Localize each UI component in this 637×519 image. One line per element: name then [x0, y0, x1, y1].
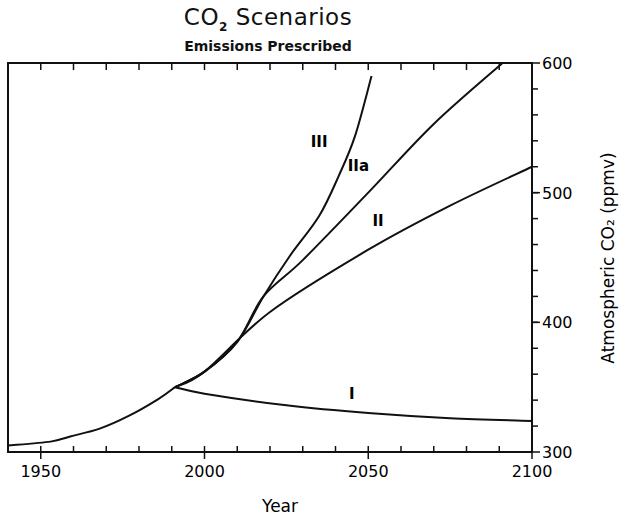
series-line-ii: [175, 167, 532, 387]
series-line-iii: [175, 76, 372, 387]
x-axis-label: Year: [261, 496, 298, 516]
series-labels: IIIIIaIII: [311, 133, 384, 403]
series-label-ii: II: [372, 212, 383, 230]
x-tick-label: 2050: [348, 462, 389, 481]
y-tick-label: 300: [542, 443, 573, 462]
series-line-historical: [8, 387, 175, 445]
y-axis-label: Atmospheric CO₂ (ppmv): [598, 152, 618, 363]
series-line-iia: [175, 63, 503, 387]
y-tick-label: 400: [542, 313, 573, 332]
x-tick-label: 1950: [20, 462, 61, 481]
data-series: [8, 63, 532, 446]
y-tick-label: 500: [542, 184, 573, 203]
co2-scenarios-chart: 1950200020502100300400500600 IIIIIaIII Y…: [0, 0, 637, 519]
series-label-iii: III: [311, 133, 328, 151]
plot-border: [8, 63, 532, 452]
series-label-iia: IIa: [348, 157, 369, 175]
y-tick-label: 600: [542, 54, 573, 73]
x-tick-label: 2100: [512, 462, 553, 481]
axis-ticks: 1950200020502100300400500600: [20, 54, 572, 481]
x-tick-label: 2000: [184, 462, 225, 481]
series-label-i: I: [349, 385, 355, 403]
plot-frame: [8, 63, 532, 452]
